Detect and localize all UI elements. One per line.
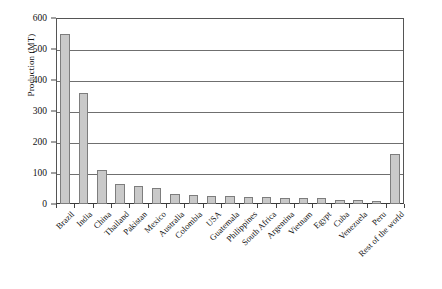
- x-axis-tick-mark: [294, 204, 295, 208]
- x-axis-tick-mark: [276, 204, 277, 208]
- x-axis-tick-mark: [129, 204, 130, 208]
- y-axis-tick-label: 100: [33, 168, 47, 178]
- bars-layer: [56, 18, 404, 204]
- x-axis-tick-mark: [312, 204, 313, 208]
- bar: [390, 154, 400, 204]
- x-axis-tick-mark: [203, 204, 204, 208]
- y-axis-tick-label: 0: [42, 199, 47, 209]
- y-axis-tick-label: 300: [33, 106, 47, 116]
- bar: [244, 197, 254, 204]
- x-axis-tick-labels: BrazilIndiaChinaThailandPakistanMexicoAu…: [56, 209, 442, 289]
- x-axis-tick-mark: [386, 204, 387, 208]
- y-axis-tick-label: 400: [33, 75, 47, 85]
- bar: [79, 93, 89, 204]
- x-axis-tick-mark: [166, 204, 167, 208]
- bar: [189, 195, 199, 204]
- bar: [170, 194, 180, 204]
- bar: [115, 184, 125, 204]
- x-axis-tick-mark: [56, 204, 57, 208]
- bar: [97, 170, 107, 204]
- x-axis-tick-label: India: [75, 209, 95, 229]
- y-axis-tick-label: 200: [33, 137, 47, 147]
- bar: [262, 197, 272, 204]
- x-axis-tick-mark: [349, 204, 350, 208]
- x-axis-tick-mark: [257, 204, 258, 208]
- x-axis-tick-mark: [239, 204, 240, 208]
- x-axis-tick-mark: [404, 204, 405, 208]
- production-bar-chart: Production (MT) 0100200300400500600 Braz…: [0, 0, 442, 289]
- x-axis-tick-mark: [74, 204, 75, 208]
- x-axis-tick-mark: [148, 204, 149, 208]
- x-axis-tick-mark: [111, 204, 112, 208]
- x-axis-tick-mark: [93, 204, 94, 208]
- bar: [207, 196, 217, 204]
- x-axis-tick-mark: [221, 204, 222, 208]
- x-axis-tick-label: Egypt: [311, 209, 333, 231]
- x-axis-tick-mark: [367, 204, 368, 208]
- x-axis-tick-mark: [331, 204, 332, 208]
- bar: [225, 196, 235, 204]
- y-axis-tick-labels: 0100200300400500600: [0, 18, 56, 204]
- x-axis-tick-mark: [184, 204, 185, 208]
- bar: [60, 34, 70, 205]
- bar: [134, 186, 144, 204]
- y-axis-tick-label: 600: [33, 13, 47, 23]
- x-axis-tick-label: Brazil: [54, 209, 76, 231]
- y-axis-tick-label: 500: [33, 44, 47, 54]
- bar: [152, 188, 162, 204]
